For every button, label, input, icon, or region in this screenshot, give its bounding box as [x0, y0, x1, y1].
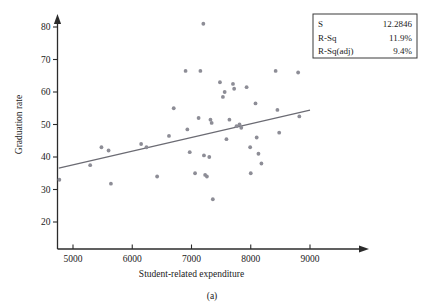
data-point: [211, 197, 215, 201]
data-point: [193, 171, 197, 175]
stats-box-label: R-Sq(adj): [318, 46, 354, 56]
data-point: [238, 123, 242, 127]
y-axis-tick-label: 20: [41, 217, 51, 227]
data-point: [197, 116, 201, 120]
scatter-plot-figure: 2030405060708050006000700080009000Gradua…: [0, 0, 424, 308]
x-axis-tick-label: 9000: [301, 254, 320, 264]
data-point: [188, 150, 192, 154]
x-axis-tick-label: 6000: [123, 254, 142, 264]
x-axis-tick-label: 5000: [64, 254, 83, 264]
data-point: [274, 69, 278, 73]
regression-line: [59, 110, 310, 168]
data-point: [254, 101, 258, 105]
stats-box-value: 11.9%: [389, 33, 412, 43]
data-point: [172, 106, 176, 110]
data-point: [210, 121, 214, 125]
data-point: [239, 126, 243, 130]
data-point: [145, 145, 149, 149]
data-point: [205, 175, 209, 179]
x-axis-arrowhead: [359, 245, 369, 252]
data-point: [100, 145, 104, 149]
data-point: [276, 108, 280, 112]
data-point: [207, 155, 211, 159]
data-point: [248, 145, 252, 149]
data-point: [201, 22, 205, 26]
data-point: [231, 82, 235, 86]
data-point: [139, 142, 143, 146]
data-point: [232, 87, 236, 91]
y-axis-tick-label: 50: [41, 120, 51, 130]
figure-caption: (a): [207, 291, 218, 302]
data-point: [257, 152, 261, 156]
y-axis-title: Graduation rate: [14, 95, 24, 154]
data-point: [249, 171, 253, 175]
y-axis-tick-label: 40: [41, 152, 51, 162]
data-point: [167, 134, 171, 138]
data-point: [109, 182, 113, 186]
stats-box-value: 12.2846: [383, 19, 413, 29]
data-point: [296, 71, 300, 75]
data-point: [57, 178, 61, 182]
y-axis-arrowhead: [54, 14, 61, 24]
data-point: [245, 85, 249, 89]
plot-canvas: 2030405060708050006000700080009000Gradua…: [0, 0, 424, 308]
data-point: [297, 114, 301, 118]
data-point: [223, 90, 227, 94]
stats-box-label: R-Sq: [318, 33, 337, 43]
data-point: [260, 162, 264, 166]
y-axis-tick-label: 60: [41, 87, 51, 97]
data-point: [88, 163, 92, 167]
data-point: [198, 69, 202, 73]
stats-box-value: 9.4%: [393, 46, 412, 56]
data-point: [221, 95, 225, 99]
y-axis-tick-label: 80: [41, 22, 51, 32]
data-point: [184, 69, 188, 73]
y-axis-tick-label: 30: [41, 185, 51, 195]
data-point: [202, 153, 206, 157]
data-point: [228, 118, 232, 122]
data-point: [107, 149, 111, 153]
x-axis-tick-label: 8000: [241, 254, 260, 264]
data-point: [155, 175, 159, 179]
data-point: [209, 118, 213, 122]
x-axis-tick-label: 7000: [182, 254, 201, 264]
stats-box-label: S: [318, 19, 323, 29]
data-point: [277, 131, 281, 135]
data-point: [218, 80, 222, 84]
data-point: [185, 127, 189, 131]
data-point: [255, 136, 259, 140]
y-axis-tick-label: 70: [41, 55, 51, 65]
x-axis-title: Student-related expenditure: [139, 269, 244, 279]
data-point: [225, 137, 229, 141]
